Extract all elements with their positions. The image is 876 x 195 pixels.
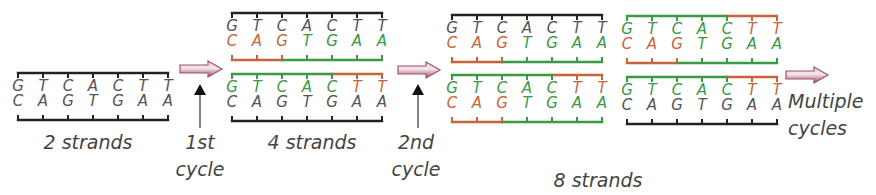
nucleotide-A: A	[471, 94, 482, 112]
nucleotide-A: A	[37, 92, 48, 110]
nucleotide-G: G	[721, 35, 733, 53]
nucleotide-A: A	[351, 93, 362, 111]
nucleotide-A: A	[771, 35, 782, 53]
nucleotide-G: G	[276, 93, 288, 111]
nucleotide-A: A	[571, 34, 582, 52]
nucleotide-A: A	[251, 93, 262, 111]
nucleotide-G: G	[546, 94, 558, 112]
pcr-diagram-canvas: GTCACTTCAGTGAAGTCACTTCAGTGAAGTCACTTCAGTG…	[0, 0, 876, 195]
nucleotide-G: G	[546, 34, 558, 52]
cycle-label-first-line1: 1st	[185, 131, 216, 153]
nucleotide-C: C	[13, 92, 24, 110]
cycle-label-second-line1: 2nd	[398, 131, 435, 153]
stage-label-2-strands: 2 strands	[44, 131, 133, 153]
nucleotide-G: G	[112, 92, 124, 110]
pcr-amplification-diagram: GTCACTTCAGTGAAGTCACTTCAGTGAAGTCACTTCAGTG…	[0, 0, 876, 195]
right-arrow-icon	[398, 62, 440, 78]
nucleotide-A: A	[471, 34, 482, 52]
arrow-to-cycle-2	[398, 62, 440, 78]
nucleotide-A: A	[596, 34, 607, 52]
nucleotide-G: G	[721, 96, 733, 114]
cycle-label-multiple-line1: Multiple	[788, 90, 863, 112]
nucleotide-A: A	[351, 32, 362, 50]
nucleotide-A: A	[646, 35, 657, 53]
nucleotide-G: G	[326, 32, 338, 50]
right-arrow-icon	[180, 61, 222, 77]
up-arrow-icon	[194, 84, 206, 95]
stage-8-strands-duplex-3: GTCACTTCAGTGAA	[446, 75, 608, 122]
right-arrow-icon	[786, 67, 828, 83]
nucleotide-G: G	[496, 34, 508, 52]
stage-2-strands-duplex-1: GTCACTTCAGTGAA	[12, 73, 174, 120]
stage-4-strands-duplex-1: GTCACTTCAGTGAA	[226, 13, 388, 60]
stage-8-strands-duplex-1: GTCACTTCAGTGAA	[446, 15, 608, 62]
nucleotide-C: C	[622, 35, 633, 53]
stage-8-strands-duplex-4: GTCACTTCAGTGAA	[621, 77, 783, 124]
nucleotide-G: G	[671, 35, 683, 53]
nucleotide-C: C	[227, 32, 238, 50]
nucleotide-A: A	[771, 96, 782, 114]
nucleotide-A: A	[162, 92, 173, 110]
arrow-to-multiple-cycles	[786, 67, 828, 83]
nucleotide-A: A	[596, 94, 607, 112]
nucleotide-G: G	[326, 93, 338, 111]
nucleotide-G: G	[62, 92, 74, 110]
cycle-2-pointer	[412, 84, 424, 128]
nucleotide-A: A	[571, 94, 582, 112]
cycle-label-second-line2: cycle	[391, 158, 440, 180]
stage-label-4-strands: 4 strands	[268, 131, 357, 153]
nucleotide-A: A	[137, 92, 148, 110]
stage-8-strands-duplex-2: GTCACTTCAGTGAA	[621, 16, 783, 63]
nucleotide-C: C	[622, 96, 633, 114]
nucleotide-C: C	[447, 34, 458, 52]
nucleotide-G: G	[496, 94, 508, 112]
nucleotide-A: A	[376, 32, 387, 50]
nucleotide-G: G	[276, 32, 288, 50]
cycle-1-pointer	[194, 84, 206, 128]
nucleotide-G: G	[671, 96, 683, 114]
arrow-to-cycle-1	[180, 61, 222, 77]
nucleotide-C: C	[447, 94, 458, 112]
nucleotide-A: A	[376, 93, 387, 111]
stage-4-strands-duplex-2: GTCACTTCAGTGAA	[226, 74, 388, 121]
up-arrow-icon	[412, 84, 424, 95]
nucleotide-A: A	[746, 96, 757, 114]
cycle-label-first-line2: cycle	[175, 158, 224, 180]
nucleotide-C: C	[227, 93, 238, 111]
nucleotide-A: A	[646, 96, 657, 114]
nucleotide-A: A	[746, 35, 757, 53]
stage-label-8-strands: 8 strands	[554, 169, 643, 191]
nucleotide-A: A	[251, 32, 262, 50]
cycle-label-multiple-line2: cycles	[788, 117, 847, 139]
